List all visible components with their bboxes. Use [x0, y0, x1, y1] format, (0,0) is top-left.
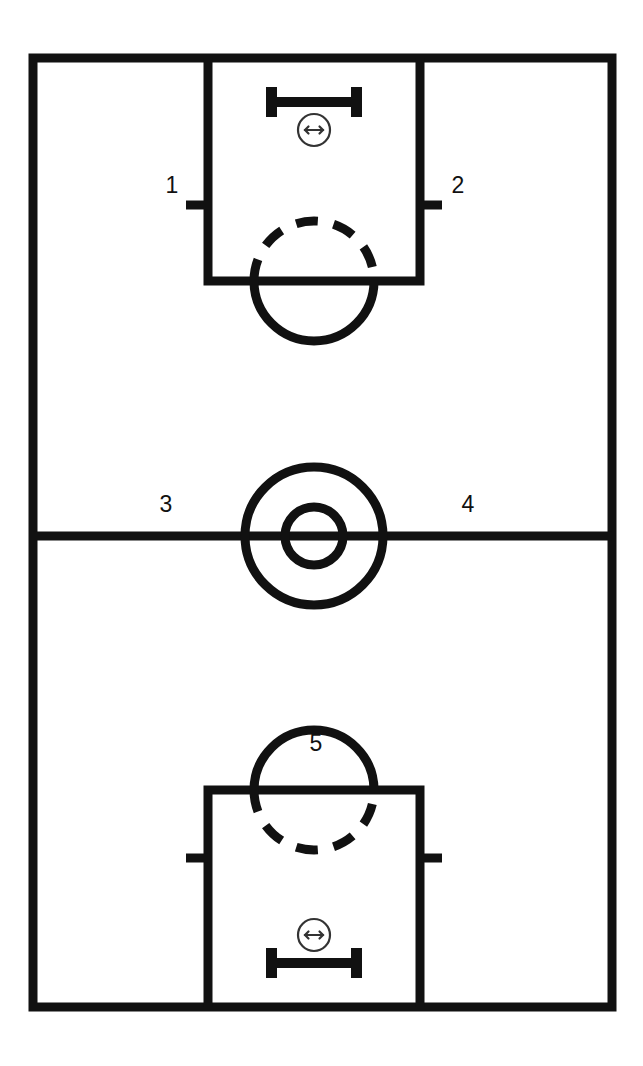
top-backboard-post-right — [351, 87, 362, 117]
zone-label-3: 3 — [160, 491, 173, 517]
basketball-court-diagram: 1 2 3 4 5 — [0, 0, 643, 1066]
bottom-backboard-bar — [266, 958, 362, 968]
zone-label-1: 1 — [166, 172, 179, 198]
zone-label-5: 5 — [310, 730, 323, 756]
bottom-backboard-post-right — [351, 948, 362, 978]
bottom-backboard-post-left — [266, 948, 277, 978]
top-backboard-bar — [266, 97, 362, 107]
zone-label-4: 4 — [462, 491, 475, 517]
top-backboard-post-left — [266, 87, 277, 117]
zone-label-2: 2 — [452, 172, 465, 198]
